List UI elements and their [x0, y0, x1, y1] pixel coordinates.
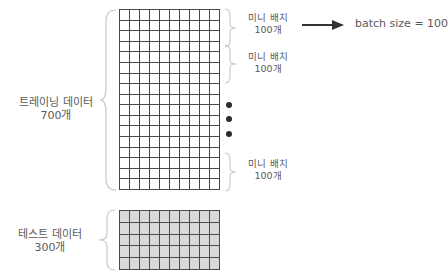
grid-cell — [180, 105, 190, 116]
grid-cell — [160, 63, 170, 74]
grid-cell — [180, 223, 190, 235]
grid-cell — [170, 31, 180, 42]
grid-cell — [130, 258, 140, 270]
grid-cell — [190, 211, 200, 223]
grid-cell — [150, 84, 160, 95]
arrow-right-icon — [302, 20, 344, 30]
grid-cell — [200, 169, 210, 180]
grid-cell — [170, 235, 180, 247]
grid-cell — [180, 84, 190, 95]
grid-cell — [170, 105, 180, 116]
grid-cell — [150, 211, 160, 223]
grid-cell — [160, 105, 170, 116]
grid-cell — [210, 126, 220, 137]
grid-cell — [190, 148, 200, 159]
mini-batch-brace-2 — [224, 44, 238, 84]
batch-size-label: batch size = 100 — [355, 17, 448, 30]
grid-cell — [210, 246, 220, 258]
grid-cell — [200, 10, 210, 21]
grid-cell — [170, 63, 180, 74]
ellipsis-dot-3 — [226, 131, 232, 137]
grid-cell — [170, 158, 180, 169]
grid-cell — [120, 63, 130, 74]
mini-batch-title: 미니 배치 — [243, 12, 293, 24]
grid-cell — [160, 42, 170, 53]
grid-cell — [160, 235, 170, 247]
grid-cell — [180, 63, 190, 74]
mini-batch-count: 100개 — [243, 170, 293, 182]
grid-cell — [140, 84, 150, 95]
grid-cell — [150, 158, 160, 169]
grid-cell — [180, 137, 190, 148]
grid-cell — [180, 235, 190, 247]
grid-cell — [140, 137, 150, 148]
training-data-count: 700개 — [6, 109, 106, 122]
grid-cell — [120, 31, 130, 42]
grid-cell — [190, 42, 200, 53]
grid-cell — [170, 179, 180, 190]
grid-cell — [190, 63, 200, 74]
grid-cell — [200, 116, 210, 127]
grid-cell — [180, 10, 190, 21]
grid-cell — [200, 258, 210, 270]
grid-cell — [200, 158, 210, 169]
grid-cell — [180, 74, 190, 85]
grid-cell — [200, 211, 210, 223]
grid-cell — [190, 137, 200, 148]
mini-batch-count: 100개 — [243, 24, 293, 36]
grid-cell — [150, 42, 160, 53]
grid-cell — [200, 74, 210, 85]
mini-batch-title: 미니 배치 — [243, 158, 293, 170]
grid-cell — [170, 148, 180, 159]
grid-cell — [170, 258, 180, 270]
grid-cell — [150, 10, 160, 21]
grid-cell — [130, 158, 140, 169]
grid-cell — [160, 74, 170, 85]
grid-cell — [210, 258, 220, 270]
grid-cell — [120, 95, 130, 106]
grid-cell — [190, 21, 200, 32]
grid-cell — [120, 52, 130, 63]
grid-cell — [190, 84, 200, 95]
grid-cell — [180, 258, 190, 270]
grid-cell — [130, 10, 140, 21]
grid-cell — [160, 116, 170, 127]
grid-cell — [120, 10, 130, 21]
grid-cell — [160, 169, 170, 180]
grid-cell — [130, 116, 140, 127]
grid-cell — [200, 179, 210, 190]
grid-cell — [190, 223, 200, 235]
grid-cell — [120, 74, 130, 85]
grid-cell — [130, 126, 140, 137]
grid-cell — [130, 179, 140, 190]
grid-cell — [210, 105, 220, 116]
grid-cell — [120, 148, 130, 159]
grid-cell — [180, 158, 190, 169]
grid-cell — [130, 74, 140, 85]
grid-cell — [170, 246, 180, 258]
grid-cell — [160, 10, 170, 21]
ellipsis-dot-2 — [226, 116, 232, 122]
grid-cell — [170, 137, 180, 148]
grid-cell — [200, 246, 210, 258]
grid-cell — [150, 63, 160, 74]
grid-cell — [130, 105, 140, 116]
grid-cell — [210, 223, 220, 235]
grid-cell — [190, 246, 200, 258]
grid-cell — [190, 105, 200, 116]
grid-cell — [210, 211, 220, 223]
grid-cell — [210, 158, 220, 169]
grid-cell — [210, 21, 220, 32]
mini-batch-brace-1 — [224, 8, 238, 48]
grid-cell — [200, 95, 210, 106]
grid-cell — [150, 105, 160, 116]
grid-cell — [120, 42, 130, 53]
grid-cell — [140, 42, 150, 53]
grid-cell — [120, 84, 130, 95]
grid-cell — [120, 179, 130, 190]
grid-cell — [130, 235, 140, 247]
grid-cell — [180, 148, 190, 159]
grid-cell — [160, 95, 170, 106]
grid-cell — [180, 31, 190, 42]
grid-cell — [140, 31, 150, 42]
